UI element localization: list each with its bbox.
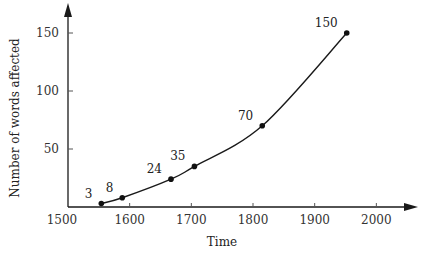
line-chart: 15001600170018001900200050100150 3824357…: [0, 0, 430, 253]
data-point: [259, 123, 265, 129]
data-point-label: 24: [147, 162, 163, 176]
y-axis-title: Number of words affected: [8, 38, 22, 198]
data-point: [168, 176, 174, 182]
data-point-label: 35: [170, 149, 185, 163]
x-axis-arrow-icon: [404, 203, 418, 211]
x-tick-label: 1600: [114, 213, 145, 227]
x-tick-label: 1500: [47, 213, 78, 227]
data-point-label: 3: [85, 187, 93, 201]
y-tick-label: 150: [36, 26, 59, 40]
x-axis-title: Time: [207, 235, 237, 249]
data-point-label: 150: [315, 16, 338, 30]
data-point: [344, 30, 350, 36]
data-point: [119, 195, 125, 201]
x-tick-label: 1800: [238, 213, 269, 227]
y-axis-arrow-icon: [64, 3, 72, 17]
x-tick-label: 1700: [176, 213, 207, 227]
data-curve: [101, 33, 346, 204]
y-tick-label: 50: [44, 142, 59, 156]
data-points: 38243570150: [85, 16, 350, 206]
data-point: [192, 164, 198, 170]
data-point-label: 8: [106, 181, 114, 195]
data-point: [99, 201, 105, 207]
axes: [64, 3, 418, 211]
x-tick-label: 1900: [299, 213, 330, 227]
data-point-label: 70: [238, 109, 253, 123]
y-tick-label: 100: [36, 84, 59, 98]
x-tick-label: 2000: [361, 213, 392, 227]
